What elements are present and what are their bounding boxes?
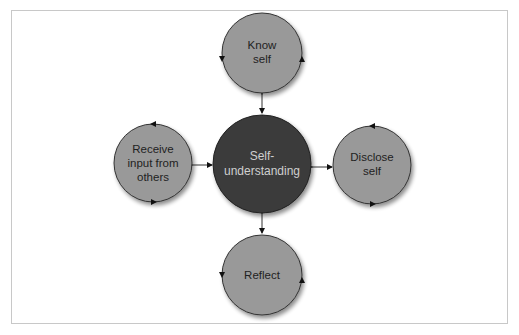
label-know-self: Know self — [248, 38, 277, 66]
label-line: self — [248, 52, 277, 66]
label-line: input from — [127, 156, 178, 170]
label-line: others — [127, 170, 178, 184]
label-disclose-self: Disclose self — [350, 150, 393, 178]
label-self-understanding: Self- understanding — [224, 149, 300, 179]
label-line: Self- — [224, 149, 300, 164]
label-receive-input: Receive input from others — [127, 142, 178, 184]
label-line: Receive — [127, 142, 178, 156]
label-line: understanding — [224, 164, 300, 179]
label-line: self — [350, 164, 393, 178]
label-reflect: Reflect — [244, 268, 280, 282]
label-line: Reflect — [244, 268, 280, 282]
label-line: Disclose — [350, 150, 393, 164]
label-line: Know — [248, 38, 277, 52]
